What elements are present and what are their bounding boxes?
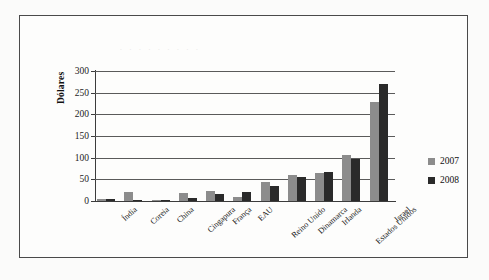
y-axis-tick-label: 150 [75, 131, 89, 141]
y-axis-tick-label: 100 [75, 153, 89, 163]
bar [370, 102, 379, 201]
x-axis-line [95, 201, 396, 202]
plot-area: 050100150200250300 [95, 71, 395, 201]
bar [297, 177, 306, 201]
bar-group [150, 71, 177, 201]
bar [242, 192, 251, 201]
legend-label: 2008 [440, 175, 459, 185]
bar-group [122, 71, 149, 201]
bar-group [231, 71, 258, 201]
bar [106, 199, 115, 201]
faded-header-text: . . . . . . . . . [120, 44, 385, 54]
bar [233, 197, 242, 201]
bar [342, 155, 351, 201]
bar [215, 194, 224, 201]
bar-group [340, 71, 367, 201]
x-axis-category-label: China [175, 205, 196, 225]
y-axis-tick-label: 300 [75, 66, 89, 76]
bar [152, 200, 161, 201]
bar [288, 175, 297, 201]
bar [124, 192, 133, 201]
y-axis-tick-label: 250 [75, 88, 89, 98]
y-axis-tick-label: 50 [80, 174, 90, 184]
bar [261, 182, 270, 201]
y-axis-tick-mark [91, 201, 95, 202]
bar [206, 191, 215, 201]
bar-group [286, 71, 313, 201]
bar [351, 159, 360, 201]
page-background: . . . . . . . . . Dólares 05010015020025… [0, 0, 489, 280]
bar-group [313, 71, 340, 201]
legend-swatch-icon [428, 158, 435, 165]
y-axis-tick-label: 200 [75, 109, 89, 119]
y-axis-title: Dólares [56, 72, 66, 104]
chart-frame: . . . . . . . . . Dólares 05010015020025… [19, 15, 468, 258]
x-axis-category-label: Coreia [149, 205, 171, 226]
bar-group [204, 71, 231, 201]
bar-group [259, 71, 286, 201]
bar [133, 200, 142, 201]
bar-group [368, 71, 395, 201]
bar-group [177, 71, 204, 201]
bar [270, 186, 279, 201]
bar [324, 172, 333, 201]
legend-label: 2007 [440, 156, 459, 166]
legend-item: 2008 [428, 175, 459, 185]
bar [161, 200, 170, 201]
bar [179, 193, 188, 201]
bar [315, 173, 324, 201]
x-axis-category-label: EAU [256, 205, 275, 223]
y-axis-tick-label: 0 [84, 196, 89, 206]
chart-legend: 20072008 [428, 156, 459, 194]
legend-item: 2007 [428, 156, 459, 166]
x-axis-category-label: Índia [120, 205, 139, 223]
bar [188, 198, 197, 201]
bar [379, 84, 388, 201]
bar-group [95, 71, 122, 201]
legend-swatch-icon [428, 177, 435, 184]
bar [97, 199, 106, 201]
